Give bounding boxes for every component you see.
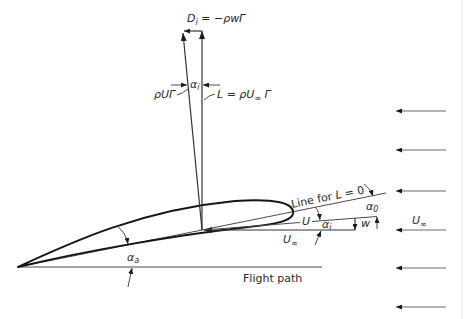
alpha-0-label: α0	[366, 200, 378, 214]
w-label: w	[361, 217, 370, 230]
u-inf-right-sub: ∞	[420, 220, 427, 229]
u-inf-local-symbol: U	[283, 233, 291, 246]
alpha-top-sub: i	[197, 83, 200, 92]
freestream-arrows	[396, 111, 446, 307]
lift-leader	[204, 94, 215, 100]
lift-sub: ∞	[254, 94, 261, 103]
flight-path-label: Flight path	[243, 272, 302, 285]
induced-drag-rhs: = −ρwΓ	[198, 12, 246, 25]
rho-u-gamma-vector	[183, 33, 202, 230]
alpha-0-sub: 0	[373, 205, 378, 214]
alpha-a-sub: a	[134, 256, 139, 265]
lift-rhs: Γ	[261, 88, 271, 101]
airfoil-outline	[18, 200, 293, 267]
alpha-a-upper-arrow	[117, 226, 128, 244]
alpha-a-label: αa	[127, 251, 139, 265]
induced-drag-label: Di = −ρwΓ	[187, 12, 246, 27]
rho-u-gamma-leader	[177, 89, 188, 95]
alpha-i-lower-arrow	[315, 231, 321, 245]
lift-label: L = ρU∞ Γ	[217, 88, 272, 103]
alpha-a-lower-arrow	[128, 268, 132, 287]
lift-lhs: L = ρU	[217, 88, 254, 101]
u-inf-local-sub: ∞	[291, 239, 298, 248]
airfoil-induced-drag-diagram: Flight path Line for L = 0 Di = −ρwΓ αi …	[0, 0, 467, 319]
induced-drag-symbol: D	[187, 12, 195, 25]
u-inf-right-symbol: U	[412, 214, 420, 227]
u-inf-freestream-label: U∞	[412, 214, 427, 229]
zero-lift-line-label: Line for L = 0	[290, 183, 366, 210]
alpha-i-top-label: αi	[190, 78, 200, 92]
u-label: U	[302, 215, 310, 228]
alpha-i-sub: i	[329, 223, 332, 232]
alpha-i-upper-arrow	[315, 207, 320, 220]
rho-u-gamma-label: ρUΓ	[154, 88, 176, 101]
u-inf-local-label: U∞	[283, 233, 298, 248]
alpha-0-arrow	[364, 184, 373, 196]
